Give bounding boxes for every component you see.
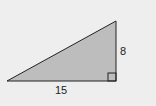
height-label: 8: [120, 46, 126, 57]
triangle-shape: [7, 21, 116, 81]
base-label: 15: [55, 85, 67, 96]
right-triangle: [0, 0, 156, 106]
diagram-canvas: 8 15: [0, 0, 156, 106]
